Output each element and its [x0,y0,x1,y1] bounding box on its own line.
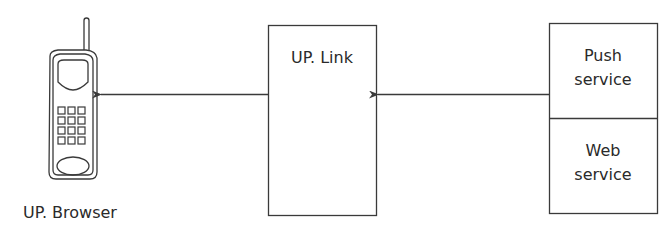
up-browser-label: UP. Browser [0,201,140,225]
web-service-label: Web service [549,139,657,187]
web-service-line2: service [549,163,657,187]
push-service-label: Push service [549,44,657,92]
diagram-canvas [0,0,671,231]
up-link-label: UP. Link [268,46,376,70]
mobile-phone-icon [49,18,97,179]
push-service-line2: service [549,68,657,92]
push-service-line1: Push [549,44,657,68]
web-service-line1: Web [549,139,657,163]
